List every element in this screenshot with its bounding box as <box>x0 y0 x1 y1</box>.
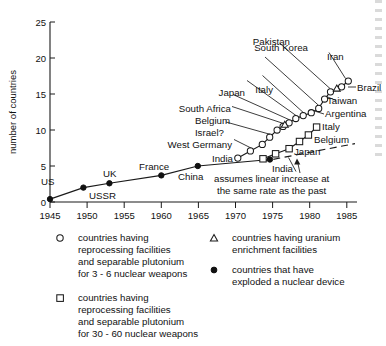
legend-item-reprocessing-3-6: countries having reprocessing facilities… <box>57 232 188 279</box>
chart-figure: 25 20 15 10 5 0 number of countries 1945 <box>0 0 386 346</box>
label-uk: UK <box>103 168 117 179</box>
data-point-circle-5 <box>274 127 280 133</box>
point-labels: US USSR UK France China India India West… <box>41 36 381 201</box>
label-argentina: Argentina <box>325 108 367 119</box>
data-point-japan-circle <box>293 115 299 121</box>
legend-2-line-1: countries having <box>78 292 149 303</box>
x-ticklabel-1980: 1980 <box>299 210 320 221</box>
label-japan-square: Japan <box>294 146 320 157</box>
y-ticklabel-0: 0 <box>41 197 46 208</box>
legend-item-reprocessing-30-60: countries having reprocessing facilities… <box>57 292 198 339</box>
data-point-japan-square <box>286 146 292 152</box>
legend-3-line-2: enrichment facilities <box>232 244 317 255</box>
data-point-india-reprocessing <box>235 155 241 161</box>
legend-1-line-2: reprocessing facilities <box>78 244 171 255</box>
data-point-iran <box>345 78 351 84</box>
data-point-argentina <box>308 110 314 116</box>
y-ticks <box>50 22 55 202</box>
data-point-italy-square <box>313 124 319 130</box>
label-india-reprocessing: India <box>212 153 234 164</box>
data-point-china <box>195 163 200 168</box>
y-axis-title: number of countries <box>7 70 18 154</box>
data-point-circle-3 <box>259 141 265 147</box>
data-point-square-4 <box>296 138 302 144</box>
annotation-line-1: assumes linear increase at <box>214 173 330 184</box>
legend-1-line-3: and separable plutonium <box>78 256 184 267</box>
label-west-germany: West Germany <box>168 139 233 150</box>
data-point-india-tested <box>267 157 272 162</box>
data-point-south-korea <box>327 89 333 95</box>
x-ticklabel-1970: 1970 <box>225 210 246 221</box>
legend-open-circle-icon <box>57 235 63 241</box>
x-ticks <box>50 202 347 208</box>
legend-2-line-4: for 30 - 60 nuclear weapons <box>78 328 198 339</box>
y-ticklabel-15: 15 <box>35 89 46 100</box>
legend-item-uranium-enrichment: countries having uranium enrichment faci… <box>210 232 340 255</box>
data-point-pakistan <box>316 105 322 111</box>
data-point-west-germany <box>247 148 253 154</box>
label-italy-circle: Italy <box>255 84 273 95</box>
data-point-square-1 <box>260 156 266 162</box>
data-point-france <box>159 173 164 178</box>
x-ticklabel-1955: 1955 <box>114 210 135 221</box>
label-iran: Iran <box>327 51 344 62</box>
legend-filled-circle-icon <box>211 267 217 273</box>
label-israel: Israel? <box>195 127 225 138</box>
label-belgium-square: Belgium <box>314 134 349 145</box>
legend-open-square-icon <box>57 295 64 302</box>
x-ticklabel-1960: 1960 <box>151 210 172 221</box>
x-ticklabel-1975: 1975 <box>262 210 283 221</box>
data-point-uk <box>107 181 112 186</box>
x-ticklabel-1950: 1950 <box>77 210 98 221</box>
label-france: France <box>139 161 169 172</box>
y-ticklabel-25: 25 <box>35 17 46 28</box>
label-japan-circle: Japan <box>219 87 245 98</box>
legend-4-line-1: countries that have <box>232 264 314 275</box>
data-point-ussr <box>81 185 86 190</box>
label-belgium-circle: Belgium <box>195 115 230 126</box>
x-ticklabel-1985: 1985 <box>336 210 357 221</box>
label-south-africa: South Africa <box>179 103 232 114</box>
legend-item-exploded-device: countries that have exploded a nuclear d… <box>211 264 344 287</box>
x-ticklabel-1945: 1945 <box>39 210 60 221</box>
x-axis: 1945 1950 1955 1960 1965 1970 1975 1980 … <box>39 202 357 221</box>
legend: countries having reprocessing facilities… <box>57 232 345 339</box>
label-italy-square: Italy <box>322 121 340 132</box>
legend-2-line-2: reprocessing facilities <box>78 304 171 315</box>
y-ticklabel-20: 20 <box>35 53 46 64</box>
data-point-italy-circle <box>300 113 306 119</box>
legend-4-line-2: exploded a nuclear device <box>232 276 345 287</box>
data-point-us <box>47 196 52 201</box>
legend-1-line-4: for 3 - 6 nuclear weapons <box>78 268 187 279</box>
y-ticklabel-5: 5 <box>41 161 46 172</box>
x-ticklabel-1965: 1965 <box>188 210 209 221</box>
chart-svg: 25 20 15 10 5 0 number of countries 1945 <box>0 0 386 346</box>
y-ticklabel-10: 10 <box>35 125 46 136</box>
label-south-korea: South Korea <box>254 42 308 53</box>
legend-open-triangle-icon <box>210 235 217 242</box>
legend-1-line-1: countries having <box>78 232 149 243</box>
data-point-israel <box>267 134 273 140</box>
label-taiwan: Taiwan <box>327 95 357 106</box>
scan-edge-artifact <box>374 0 384 346</box>
legend-3-line-1: countries having uranium <box>232 232 340 243</box>
annotation-arrowhead <box>294 158 300 164</box>
data-point-belgium-square <box>305 132 311 138</box>
label-ussr: USSR <box>89 190 116 201</box>
data-point-square-2 <box>272 151 278 157</box>
label-china: China <box>178 171 204 182</box>
annotation-line-2: the same rate as the past <box>217 185 327 196</box>
legend-2-line-3: and separable plutonium <box>78 316 184 327</box>
label-us: US <box>41 176 55 187</box>
